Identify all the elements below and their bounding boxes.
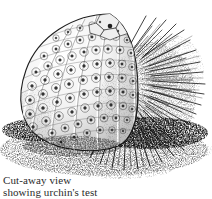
figure-root: Cut-away view showing urchin's test <box>0 0 212 199</box>
contact-shadow <box>22 136 122 156</box>
figure-caption: Cut-away view showing urchin's test <box>3 175 163 198</box>
urchin-test <box>12 13 152 152</box>
sea-urchin-illustration <box>0 0 212 199</box>
caption-line-2: showing urchin's test <box>3 187 163 199</box>
caption-line-1: Cut-away view <box>3 175 163 187</box>
illustration-canvas <box>0 0 212 199</box>
